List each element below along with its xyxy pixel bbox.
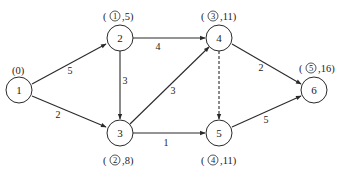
annotation-paren: ( <box>299 63 303 75</box>
edge-4-6 <box>232 44 301 84</box>
node-2-annotation: ( 1 ,5) <box>103 11 134 23</box>
weight-5-6: 5 <box>264 114 269 125</box>
annotation-order-badge: 4 <box>211 155 216 165</box>
node-6-label: 6 <box>311 84 317 96</box>
node-1: 1 <box>6 77 32 103</box>
node-4-label: 4 <box>216 32 222 44</box>
annotation-value: ,16) <box>318 63 335 75</box>
annotation-value: ,8) <box>122 155 134 167</box>
node-1-annotation: (0) <box>12 65 25 77</box>
weight-3-5: 1 <box>164 137 169 148</box>
node-2: 2 <box>107 25 133 51</box>
weight-2-4: 4 <box>156 41 161 52</box>
node-2-label: 2 <box>117 32 123 44</box>
node-5: 5 <box>206 120 232 146</box>
weight-3-4: 3 <box>171 85 176 96</box>
annotation-order-badge: 2 <box>113 155 117 165</box>
annotation-paren: ( <box>103 11 107 23</box>
annotation-paren: ( <box>201 155 205 167</box>
annotation-value: ,11) <box>220 155 237 167</box>
node-1-label: 1 <box>16 84 22 96</box>
node-3: 3 <box>107 120 133 146</box>
weight-1-2: 5 <box>68 65 73 76</box>
weight-4-6: 2 <box>259 62 264 73</box>
node-4: 4 <box>206 25 232 51</box>
annotation-order-badge: 3 <box>211 11 215 21</box>
annotation-paren: ( <box>103 155 107 167</box>
edge-1-3 <box>32 96 106 127</box>
node-3-annotation: ( 2 ,8) <box>103 155 134 167</box>
annotation-order-badge: 1 <box>113 11 117 21</box>
annotation-value: ,11) <box>220 11 237 23</box>
annotation-order-badge: 5 <box>309 63 313 73</box>
edge-weights: 5 2 4 3 3 1 2 5 <box>56 41 269 148</box>
edges <box>32 38 301 133</box>
annotation-value: ,5) <box>122 11 134 23</box>
network-diagram: 5 2 4 3 3 1 2 5 1 2 3 4 5 6 (0) ( 1 ,5) <box>0 0 338 169</box>
node-6: 6 <box>301 77 327 103</box>
node-5-label: 5 <box>216 127 222 139</box>
edge-3-4 <box>130 47 209 124</box>
node-3-label: 3 <box>117 127 123 139</box>
node-6-annotation: ( 5 ,16) <box>299 63 335 75</box>
annotation-paren: ( <box>201 11 205 23</box>
weight-2-3: 3 <box>123 75 128 86</box>
node-5-annotation: ( 4 ,11) <box>201 155 237 167</box>
weight-1-3: 2 <box>56 109 61 120</box>
node-4-annotation: ( 3 ,11) <box>201 11 237 23</box>
